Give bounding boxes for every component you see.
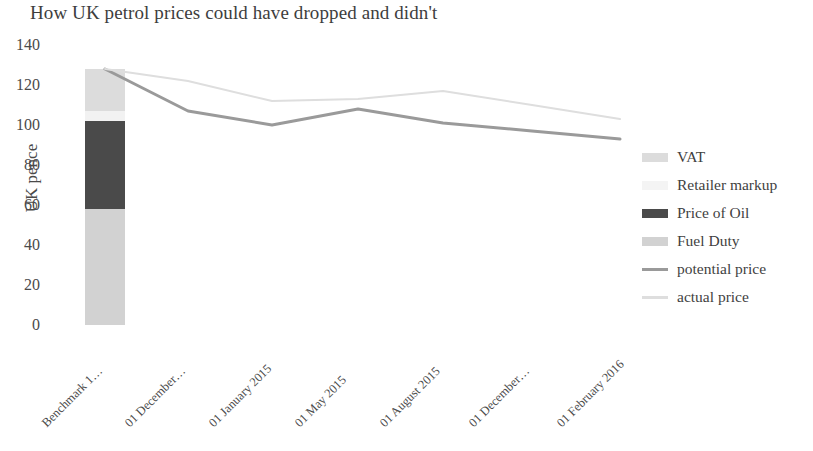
- legend-label: potential price: [677, 260, 766, 278]
- legend-label: Price of Oil: [677, 204, 749, 222]
- legend-swatch-icon: [642, 237, 668, 246]
- legend-item-vat[interactable]: VAT: [642, 143, 813, 171]
- legend-item-potential-price[interactable]: potential price: [642, 255, 813, 283]
- bar-segment-price-of-oil: [85, 121, 125, 209]
- chart-container: How UK petrol prices could have dropped …: [0, 0, 813, 451]
- legend-swatch-icon: [642, 153, 668, 162]
- legend-swatch-icon: [642, 296, 668, 299]
- legend-label: Fuel Duty: [677, 232, 739, 250]
- legend-item-actual-price[interactable]: actual price: [642, 283, 813, 311]
- bar-segment-fuel-duty: [85, 209, 125, 325]
- legend-label: Retailer markup: [677, 176, 777, 194]
- line-series-actual-price: [105, 69, 620, 119]
- legend-swatch-icon: [642, 209, 668, 218]
- legend-swatch-icon: [642, 268, 668, 271]
- legend-item-price-of-oil[interactable]: Price of Oil: [642, 199, 813, 227]
- legend-item-fuel-duty[interactable]: Fuel Duty: [642, 227, 813, 255]
- bar-segment-retailer-markup: [85, 111, 125, 121]
- legend-label: actual price: [677, 288, 749, 306]
- chart-legend: VATRetailer markupPrice of OilFuel Dutyp…: [642, 143, 813, 311]
- legend-label: VAT: [677, 148, 705, 166]
- legend-swatch-icon: [642, 181, 668, 190]
- legend-item-retailer-markup[interactable]: Retailer markup: [642, 171, 813, 199]
